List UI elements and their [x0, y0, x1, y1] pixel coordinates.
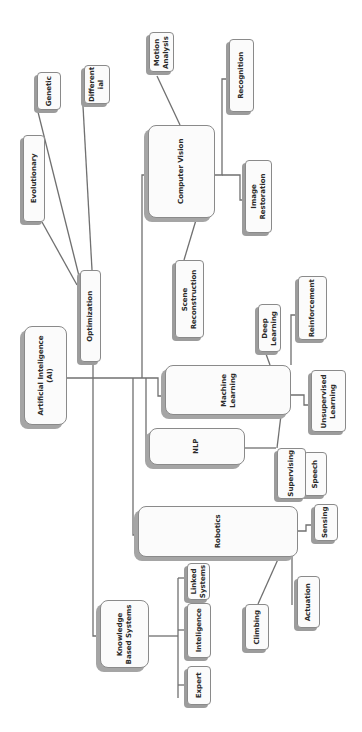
- node-unsupervised-learning: UnsupervisedLearning: [311, 370, 346, 432]
- node-label: Learning: [270, 311, 279, 346]
- node-label: Based Systems: [125, 604, 134, 664]
- node-label: Artificial Inteligence: [37, 335, 46, 415]
- node-label: Reconstruction: [190, 269, 199, 329]
- node-nlp: NLP: [149, 428, 245, 465]
- node-label: Knowledge: [116, 604, 125, 664]
- node-label: Deep: [261, 311, 270, 346]
- node-label: Linked: [190, 565, 199, 598]
- node-label: Machine: [219, 373, 228, 408]
- node-label: NLP: [193, 439, 202, 454]
- node-label: Reinforcement: [308, 279, 317, 337]
- node-artificial-inteligence: Artificial Inteligence(AI): [24, 326, 67, 425]
- node-computer-vision: Computer Vision: [148, 125, 215, 218]
- node-label: Evolutionary: [30, 154, 39, 204]
- node-expert: Expert: [187, 666, 211, 705]
- node-image-restoration: ImageRestoration: [245, 160, 272, 233]
- node-label: Genetic: [45, 76, 54, 106]
- node-label: Sensing: [322, 507, 331, 538]
- node-recognition: Recognition: [229, 39, 254, 112]
- node-label: Learning: [228, 373, 237, 408]
- node-evolutionary: Evolutionary: [23, 135, 45, 222]
- node-scene-reconstruction: SceneReconstruction: [175, 260, 204, 338]
- node-label: (AI): [46, 335, 55, 415]
- node-sensing: Sensing: [314, 504, 338, 541]
- node-label: Scene: [181, 269, 190, 329]
- node-label: Learning: [329, 374, 338, 428]
- node-knowledge-based-systems: KnowledgeBased Systems: [100, 600, 149, 668]
- node-label: Climbing: [253, 610, 262, 645]
- node-label: Restoration: [259, 173, 268, 219]
- node-inteligence: Inteligence: [187, 603, 211, 658]
- node-label: ial: [97, 67, 106, 102]
- node-robotics: Robotics: [138, 506, 298, 557]
- node-differential: Differential: [84, 65, 110, 104]
- node-label: Different: [89, 67, 98, 102]
- mind-map-canvas: Evolutionary Genetic Differential Optimi…: [0, 0, 362, 732]
- node-speech: Speech: [303, 452, 327, 496]
- node-label: Speech: [311, 460, 320, 489]
- node-label: Robotics: [214, 514, 223, 548]
- node-label: Motion: [153, 36, 162, 69]
- node-reinforcement: Reinforcement: [298, 276, 327, 340]
- node-label: Unsupervised: [320, 374, 329, 428]
- node-actuation: Actuation: [297, 576, 320, 628]
- node-label: Supervising: [287, 450, 296, 497]
- node-label: Expert: [195, 673, 204, 699]
- node-label: Systems: [199, 565, 208, 598]
- node-machine-learning: MachineLearning: [165, 365, 291, 415]
- node-label: Optimization: [86, 291, 95, 342]
- node-climbing: Climbing: [245, 604, 269, 650]
- node-genetic: Genetic: [37, 72, 61, 110]
- node-label: Actuation: [304, 583, 313, 621]
- node-optimization: Optimization: [80, 270, 101, 362]
- node-label: Recognition: [237, 52, 246, 99]
- node-label: Inteligence: [195, 608, 204, 652]
- node-supervising: Supervising: [277, 448, 306, 499]
- node-label: Analysis: [162, 36, 171, 69]
- node-linked-systems: LinkedSystems: [187, 563, 210, 600]
- node-motion-analysis: MotionAnalysis: [149, 32, 174, 72]
- node-label: Computer Vision: [177, 139, 186, 204]
- node-deep-learning: DeepLearning: [258, 304, 281, 352]
